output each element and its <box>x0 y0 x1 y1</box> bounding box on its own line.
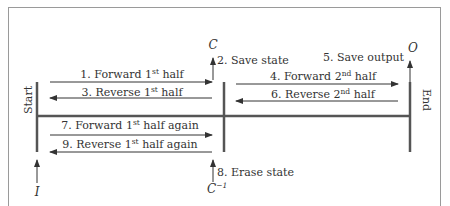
node-C: C <box>208 38 217 52</box>
step-3-label: 3. Reverse 1st half <box>81 85 183 99</box>
step-5-label: 5. Save output <box>323 51 405 64</box>
step-2-label: 2. Save state <box>217 54 289 67</box>
start-label: Start <box>22 85 35 114</box>
node-O: O <box>408 41 418 55</box>
step-1-label: 1. Forward 1st half <box>80 67 184 81</box>
step-4-label: 4. Forward 2nd half <box>270 69 377 83</box>
timeline-diagram: Start End 1. Forward 1st half 3. Reverse… <box>0 0 450 206</box>
step-9-label: 9. Reverse 1st half again <box>62 137 197 151</box>
step-8-label: 8. Erase state <box>217 166 294 179</box>
node-I: I <box>34 185 40 199</box>
step-6-label: 6. Reverse 2nd half <box>271 87 376 101</box>
node-C-inverse: C−1 <box>207 181 227 196</box>
step-7-label: 7. Forward 1st half again <box>61 118 199 132</box>
end-label: End <box>420 89 433 111</box>
